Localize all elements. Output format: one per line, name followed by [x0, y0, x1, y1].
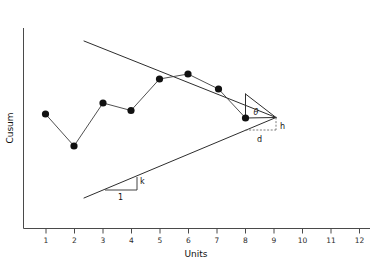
- data-point-marker: [156, 75, 163, 82]
- decision-horizontal-leg: [246, 118, 277, 119]
- data-point-marker: [127, 107, 134, 114]
- data-point-marker: [70, 142, 77, 149]
- data-point-marker: [242, 114, 249, 121]
- theta-angle-label: θ: [254, 108, 259, 117]
- y-axis-title: Cusum: [5, 112, 15, 143]
- x-tick-label: 11: [326, 236, 336, 245]
- cusum-polyline: [46, 74, 246, 146]
- axis-lines: [24, 28, 371, 229]
- x-tick-label: 4: [129, 236, 134, 245]
- chart-canvas: 1 2 3 4 5 6 7 8 9 10 11 12 Units Cusum: [0, 0, 373, 263]
- x-tick-label: 2: [72, 236, 77, 245]
- x-tick-label: 8: [243, 236, 248, 245]
- x-tick-label: 7: [215, 236, 220, 245]
- decision-interval-triangle: [246, 94, 277, 118]
- x-tick-label: 1: [44, 236, 49, 245]
- x-axis-title: Units: [184, 249, 207, 259]
- k-slope-label: k: [140, 177, 145, 186]
- data-point-marker: [215, 85, 222, 92]
- h-offset-label: h: [280, 122, 285, 131]
- axis-group: 1 2 3 4 5 6 7 8 9 10 11 12 Units Cusum: [5, 28, 370, 259]
- slope-reference-triangle: [105, 177, 137, 190]
- d-offset-label: d: [257, 135, 262, 144]
- x-tick-labels: 1 2 3 4 5 6 7 8 9 10 11 12: [44, 236, 365, 245]
- x-tick-marks: [46, 229, 360, 234]
- decision-hypotenuse: [246, 94, 277, 118]
- x-tick-label: 3: [101, 236, 106, 245]
- x-tick-label: 6: [186, 236, 191, 245]
- cusum-chart-figure: 1 2 3 4 5 6 7 8 9 10 11 12 Units Cusum: [0, 0, 373, 263]
- x-tick-label: 9: [272, 236, 277, 245]
- data-point-marker: [99, 99, 106, 106]
- one-run-label: 1: [118, 193, 123, 202]
- x-tick-label: 12: [355, 236, 365, 245]
- data-point-marker: [42, 110, 49, 117]
- data-point-marker: [184, 70, 191, 77]
- x-tick-label: 10: [298, 236, 308, 245]
- x-tick-label: 5: [158, 236, 163, 245]
- cusum-series-group: [42, 70, 249, 149]
